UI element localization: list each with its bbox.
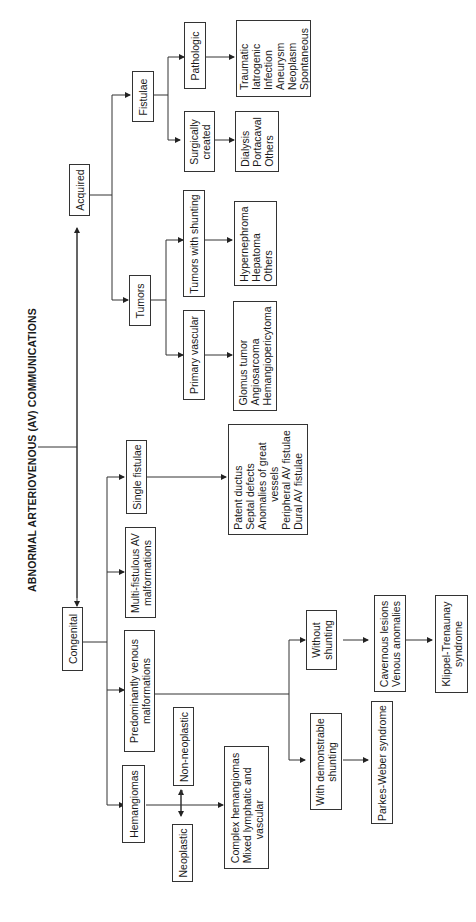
node-primary-vascular-list: Glomus tumor Angiosarcoma Hemangiopericy…	[233, 301, 277, 411]
node-without-shunting: Without shunting	[306, 610, 337, 670]
node-surgically-created: Surgically created	[184, 111, 215, 172]
node-klippel-trenaunay: Klippel-Trenaunay syndrome	[435, 595, 468, 693]
node-pathologic: Pathologic	[184, 22, 206, 89]
node-single-fistulae: Single fistulae	[126, 440, 147, 514]
node-fistulae: Fistulae	[132, 71, 154, 122]
node-surgically-created-list: Dialysis Portacaval Others	[235, 111, 279, 172]
node-complex-hemangiomas: Complex hemangiomas Mixed lymphatic and …	[224, 746, 269, 869]
node-tumors: Tumors	[129, 275, 151, 326]
node-multi-fistulous: Multi-fistulous AV malformations	[125, 527, 156, 618]
node-acquired: Acquired	[69, 164, 90, 216]
diagram-title: ABNORMAL ARTERIOVENOUS (AV) COMMUNICATIO…	[22, 300, 42, 600]
node-cavernous: Cavernous lesions Venous anomalies	[374, 595, 406, 692]
node-tumors-with-shunting: Tumors with shunting	[183, 190, 205, 297]
node-neoplastic: Neoplastic	[172, 824, 193, 882]
node-single-fistulae-list: Patent ductus Septal defects Anomalies o…	[228, 424, 308, 535]
node-tumors-with-shunting-list: Hypernephroma Hepatoma Others	[234, 201, 277, 286]
node-predominantly-venous: Predominantly venous malformations	[124, 630, 155, 752]
node-pathologic-list: Traumatic Iatrogenic Infection Aneurysm …	[236, 20, 311, 97]
node-primary-vascular: Primary vascular	[183, 310, 205, 400]
node-with-demonstrable-shunting: With demonstrable shunting	[310, 713, 342, 810]
node-congenital: Congenital	[62, 607, 83, 671]
node-parkes-weber: Parkes-Weber syndrome	[371, 701, 393, 824]
node-non-neoplastic: Non-neoplastic	[173, 707, 194, 786]
node-hemangiomas: Hemangiomas	[122, 765, 145, 843]
